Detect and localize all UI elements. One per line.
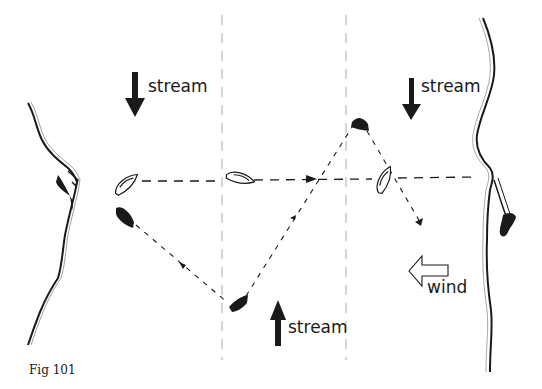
right-shore xyxy=(473,18,516,372)
stream-arrow-down-icon xyxy=(402,78,421,120)
black-boat-start-icon xyxy=(116,207,134,228)
stream-arrow-down-icon xyxy=(125,72,145,117)
stream-arrows xyxy=(125,72,421,346)
black-boat-track xyxy=(136,124,420,303)
white-boats xyxy=(112,166,400,196)
figure-caption: Fig 101 xyxy=(29,363,76,377)
left-shore xyxy=(28,102,80,345)
white-boat-mid-icon xyxy=(225,166,255,193)
stream-label-bottom: stream xyxy=(288,317,348,337)
arrow-head-icon xyxy=(290,215,296,220)
arrow-head-icon xyxy=(179,262,186,269)
white-boat-start-icon xyxy=(112,174,142,196)
black-boat-bottom-icon xyxy=(229,295,248,312)
black-boat-top-icon xyxy=(351,118,369,131)
track-direction-arrows xyxy=(179,175,423,269)
sailing-diagram: stream stream stream wind Fig 101 xyxy=(0,0,542,389)
wind-label: wind xyxy=(427,277,467,297)
stream-label-top-right: stream xyxy=(421,76,481,96)
stream-arrow-up-icon xyxy=(270,300,286,346)
left-jetty xyxy=(56,175,73,210)
stream-label-top-left: stream xyxy=(148,76,208,96)
black-boats xyxy=(116,118,369,312)
right-jetty xyxy=(500,213,516,237)
arrow-head-icon xyxy=(306,175,317,183)
